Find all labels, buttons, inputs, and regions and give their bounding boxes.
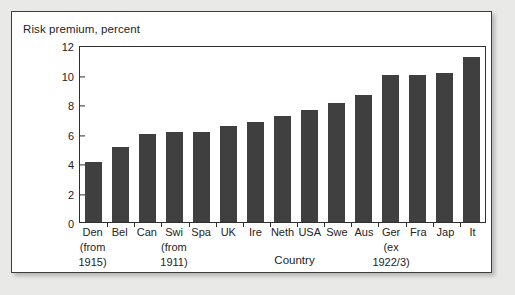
bar-slot — [107, 47, 134, 222]
bar-slot — [323, 47, 350, 222]
bar-slot — [161, 47, 188, 222]
bar[interactable] — [85, 162, 102, 222]
x-note-switzerland: (from1911) — [144, 240, 204, 269]
chart-title: Risk premium, percent — [23, 23, 140, 35]
bar[interactable] — [220, 126, 237, 222]
x-label-swe: Swe — [323, 225, 350, 241]
x-label-bel: Bel — [106, 225, 133, 241]
x-axis-title: Country — [274, 254, 314, 266]
bar-slot — [404, 47, 431, 222]
x-label-ger: Ger — [378, 225, 405, 241]
x-axis-labels: DenBelCanSwiSpaUKIreNethUSASweAusGerFraJ… — [79, 225, 486, 241]
x-label-spa: Spa — [188, 225, 215, 241]
x-note-line: 1911) — [144, 255, 204, 270]
x-label-it: It — [459, 225, 486, 241]
bar[interactable] — [193, 132, 210, 222]
bar[interactable] — [274, 116, 291, 222]
bar-slot — [269, 47, 296, 222]
bar[interactable] — [112, 147, 129, 222]
x-note-line: (ex — [361, 240, 421, 255]
bar-slot — [215, 47, 242, 222]
x-label-jap: Jap — [432, 225, 459, 241]
bar[interactable] — [139, 134, 156, 223]
x-note-line: 1915) — [63, 255, 123, 270]
x-label-aus: Aus — [350, 225, 377, 241]
bar[interactable] — [382, 75, 399, 223]
y-tick-label: 2 — [68, 189, 74, 201]
y-tick-label: 10 — [62, 71, 74, 83]
x-label-can: Can — [133, 225, 160, 241]
bar[interactable] — [409, 75, 426, 223]
bar[interactable] — [301, 110, 318, 222]
x-note-line: (from — [144, 240, 204, 255]
x-label-fra: Fra — [405, 225, 432, 241]
bar-slot — [80, 47, 107, 222]
x-note-line: (from — [63, 240, 123, 255]
bar[interactable] — [355, 95, 372, 222]
x-label-ire: Ire — [242, 225, 269, 241]
x-label-uk: UK — [215, 225, 242, 241]
x-label-neth: Neth — [269, 225, 296, 241]
x-label-den: Den — [79, 225, 106, 241]
x-label-swi: Swi — [160, 225, 187, 241]
bar-slot — [296, 47, 323, 222]
bar-slot — [242, 47, 269, 222]
y-tick-label: 8 — [68, 100, 74, 112]
bar[interactable] — [328, 103, 345, 222]
bar-slot — [134, 47, 161, 222]
bar-slot — [377, 47, 404, 222]
bar-slot — [431, 47, 458, 222]
y-tick-label: 0 — [68, 218, 74, 230]
bar-slot — [458, 47, 485, 222]
y-tick-label: 12 — [62, 41, 74, 53]
x-label-usa: USA — [296, 225, 323, 241]
x-note-line: 1922/3) — [361, 255, 421, 270]
bar[interactable] — [247, 122, 264, 222]
bars-layer — [80, 47, 485, 222]
bar-slot — [188, 47, 215, 222]
bar[interactable] — [166, 132, 183, 222]
bar[interactable] — [436, 73, 453, 222]
y-tick-label: 4 — [68, 159, 74, 171]
bar-slot — [350, 47, 377, 222]
bar[interactable] — [463, 57, 480, 222]
plot-area: 024681012 — [79, 46, 486, 223]
figure-frame: Risk premium, percent 024681012 DenBelCa… — [11, 11, 492, 273]
x-note-denmark: (from1915) — [63, 240, 123, 269]
x-note-germany: (ex1922/3) — [361, 240, 421, 269]
y-tick-label: 6 — [68, 130, 74, 142]
